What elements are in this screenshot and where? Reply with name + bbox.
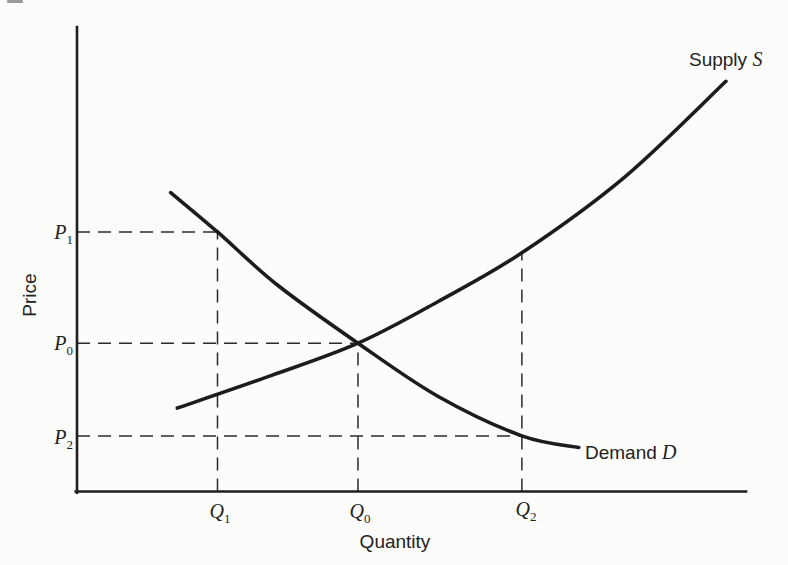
demand-word: Demand [585, 442, 657, 463]
demand-curve-label: Demand D [585, 441, 677, 464]
price-tick-p1: P1 [40, 221, 73, 244]
supply-symbol: S [752, 48, 762, 70]
price-tick-p0: P0 [40, 332, 73, 355]
demand-symbol: D [662, 441, 676, 463]
dashed-guides [77, 232, 522, 492]
quantity-tick-q2: Q2 [509, 498, 543, 521]
supply-curve [177, 81, 726, 408]
y-axis-title: Price [19, 273, 41, 316]
supply-word: Supply [689, 49, 747, 70]
supply-demand-diagram: Price Quantity Supply S Demand D P1 P0 P… [0, 0, 788, 565]
quantity-tick-q1: Q1 [203, 500, 237, 523]
quantity-tick-q0: Q0 [343, 500, 377, 523]
price-tick-p2: P2 [40, 426, 73, 449]
x-axis-title: Quantity [345, 531, 445, 553]
supply-curve-label: Supply S [689, 48, 762, 71]
demand-curve [171, 193, 579, 448]
plot-canvas [0, 0, 788, 565]
